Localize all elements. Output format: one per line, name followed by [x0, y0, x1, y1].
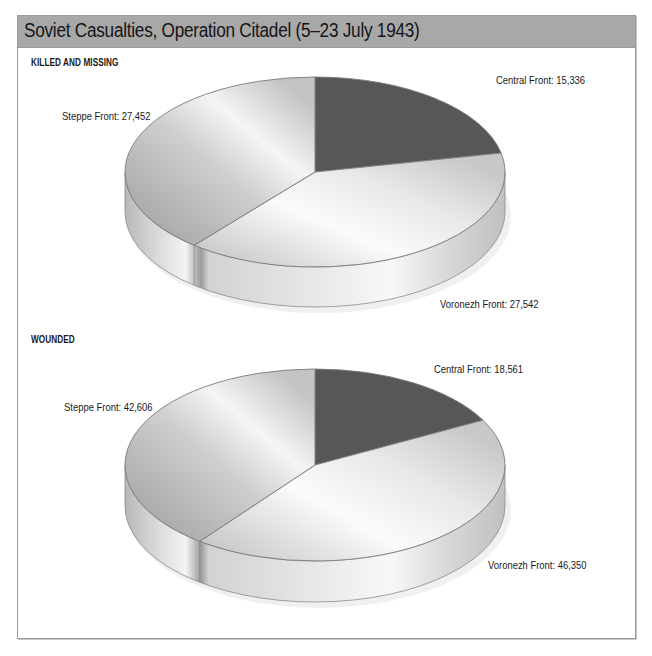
- pie-charts: [0, 0, 652, 656]
- pie-killed-missing: [125, 77, 511, 313]
- slice-label-voronezh: Voronezh Front: 27,542: [440, 298, 539, 310]
- slice-label-steppe: Steppe Front: 42,606: [64, 401, 153, 413]
- slice-label-central: Central Front: 15,336: [496, 74, 585, 86]
- section-label-wounded: WOUNDED: [31, 333, 75, 345]
- slice-label-steppe: Steppe Front: 27,452: [62, 110, 151, 122]
- pie-wounded: [125, 369, 511, 608]
- slice-label-central: Central Front: 18,561: [434, 363, 523, 375]
- slice-label-voronezh: Voronezh Front: 46,350: [488, 559, 587, 571]
- section-label-killed-missing: KILLED AND MISSING: [31, 56, 119, 68]
